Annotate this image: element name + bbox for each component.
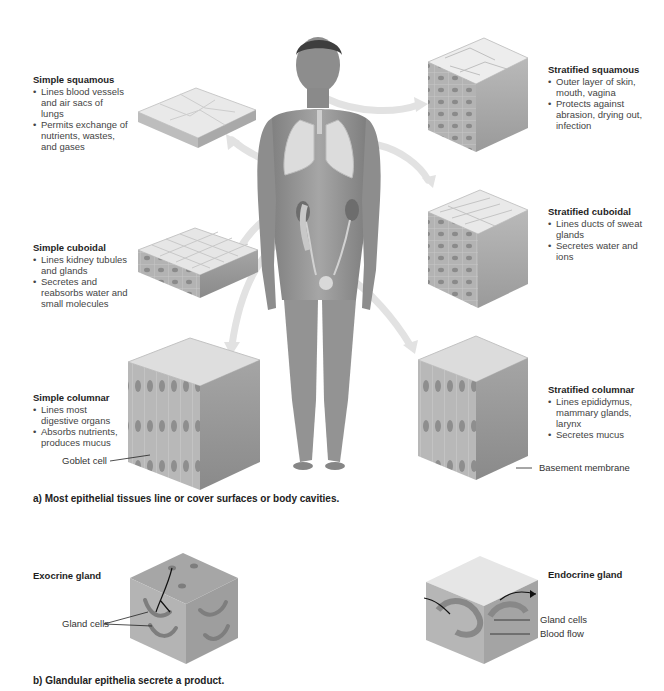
simple-cuboidal-illustration	[138, 228, 258, 298]
tissue-bullet: Outer layer of skin, mouth, vagina	[548, 76, 658, 98]
exocrine-gland-illustration	[130, 553, 238, 664]
human-figure	[257, 37, 380, 470]
stratified-cuboidal-illustration	[428, 190, 528, 308]
panel-a-caption: a) Most epithelial tissues line or cover…	[33, 493, 339, 504]
endocrine-gland-cells-callout: Gland cells	[540, 614, 587, 625]
simple-squamous-illustration	[138, 88, 256, 148]
simple-columnar-illustration	[128, 338, 260, 490]
panel-b-caption: b) Glandular epithelia secrete a product…	[33, 675, 224, 686]
endocrine-gland-label: Endocrine gland	[548, 569, 622, 581]
basement-membrane-callout: Basement membrane	[539, 462, 630, 473]
simple-squamous-label: Simple squamous Lines blood vessels and …	[33, 74, 128, 152]
tissue-bullet: Lines blood vessels and air sacs of lung…	[33, 86, 128, 119]
tissue-bullet: Absorbs nutrients, produces mucus	[33, 426, 123, 448]
tissue-bullet: Permits exchange of nutrients, wastes, a…	[33, 119, 128, 152]
tissue-name: Stratified columnar	[548, 384, 648, 395]
exocrine-gland-cells-callout: Gland cells	[62, 618, 109, 629]
simple-cuboidal-label: Simple cuboidal Lines kidney tubules and…	[33, 242, 133, 309]
simple-columnar-label: Simple columnar Lines most digestive org…	[33, 392, 123, 448]
stratified-squamous-label: Stratified squamous Outer layer of skin,…	[548, 64, 658, 131]
tissue-bullet: Lines epididymus, mammary glands, larynx	[548, 396, 648, 429]
tissue-bullet: Secretes water and ions	[548, 240, 648, 262]
stratified-columnar-illustration	[418, 336, 528, 480]
gland-name: Exocrine gland	[33, 570, 101, 581]
gland-name: Endocrine gland	[548, 569, 622, 580]
tissue-name: Stratified squamous	[548, 64, 658, 75]
blood-flow-callout: Blood flow	[540, 628, 584, 639]
exocrine-gland-label: Exocrine gland	[33, 570, 101, 582]
stratified-columnar-label: Stratified columnar Lines epididymus, ma…	[548, 384, 648, 440]
goblet-cell-callout: Goblet cell	[62, 455, 107, 466]
stratified-cuboidal-label: Stratified cuboidal Lines ducts of sweat…	[548, 206, 648, 262]
tissue-bullet: Lines kidney tubules and glands	[33, 254, 133, 276]
tissue-name: Simple squamous	[33, 74, 128, 85]
tissue-bullet: Lines ducts of sweat glands	[548, 218, 648, 240]
tissue-bullet: Secretes and reabsorbs water and small m…	[33, 276, 133, 309]
tissue-bullet: Protects against abrasion, drying out, i…	[548, 98, 658, 131]
tissue-name: Simple cuboidal	[33, 242, 133, 253]
tissue-name: Stratified cuboidal	[548, 206, 648, 217]
endocrine-gland-illustration	[424, 556, 538, 664]
stratified-squamous-illustration	[428, 38, 528, 152]
tissue-bullet: Secretes mucus	[548, 429, 648, 440]
tissue-bullet: Lines most digestive organs	[33, 404, 123, 426]
tissue-name: Simple columnar	[33, 392, 123, 403]
